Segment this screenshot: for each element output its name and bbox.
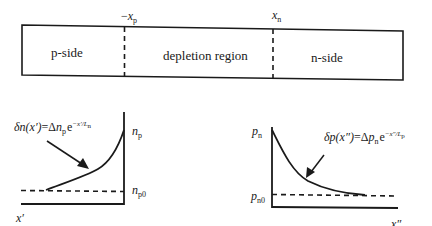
left-graph-x-axis-label: x′ bbox=[15, 211, 24, 225]
junction-bar: p-side depletion region n-side −xp xn bbox=[22, 8, 403, 80]
right-graph-x-axis bbox=[272, 207, 398, 208]
left-graph-equilibrium-line bbox=[21, 191, 124, 192]
region-label-depletion: depletion region bbox=[163, 48, 248, 63]
region-label-p-side: p-side bbox=[51, 45, 83, 60]
left-graph-formula: δn(x′)=Δnpe−x′/Ln bbox=[14, 120, 92, 136]
left-graph: δn(x′)=Δnpe−x′/Ln np np0 x′ bbox=[14, 112, 146, 225]
region-label-n-side: n-side bbox=[311, 50, 343, 65]
right-graph-bottom-label: pn0 bbox=[250, 189, 265, 205]
right-graph-equilibrium-line bbox=[272, 195, 398, 197]
right-graph-arrow-shaft bbox=[311, 155, 324, 172]
right-graph: δp(x″)=Δpne−x″/Lp pn pn0 x″ bbox=[250, 124, 405, 226]
left-graph-arrow-shaft bbox=[47, 141, 82, 164]
right-graph-x-axis-label: x″ bbox=[390, 217, 402, 226]
left-graph-bottom-label: np0 bbox=[132, 183, 146, 199]
pn-junction-diagram: p-side depletion region n-side −xp xn δn… bbox=[0, 0, 432, 226]
boundary-label-xn: xn bbox=[271, 8, 281, 24]
left-graph-top-label: np bbox=[132, 124, 142, 140]
left-graph-excess-electron-curve bbox=[46, 130, 124, 190]
boundary-label-xp: −xp bbox=[121, 9, 137, 25]
right-graph-formula: δp(x″)=Δpne−x″/Lp bbox=[324, 130, 405, 146]
right-graph-top-label: pn bbox=[251, 124, 262, 140]
left-graph-arrow-head-icon bbox=[77, 158, 89, 169]
